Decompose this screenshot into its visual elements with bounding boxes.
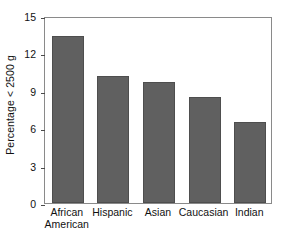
bar — [234, 122, 266, 203]
y-axis-title: Percentage < 2500 g — [0, 0, 20, 210]
bar — [143, 82, 175, 203]
y-axis-tick-labels: 03691215 — [18, 0, 40, 239]
y-axis-tick-label: 0 — [30, 199, 36, 210]
y-axis-tick-label: 12 — [24, 49, 36, 60]
bar — [189, 97, 221, 203]
bar — [97, 76, 129, 203]
plot-area — [44, 17, 272, 204]
x-axis-category-label: Indian — [220, 206, 278, 218]
y-axis-title-text: Percentage < 2500 g — [4, 55, 16, 155]
y-axis-tick-label: 9 — [30, 87, 36, 98]
y-axis-tick-label: 15 — [24, 12, 36, 23]
x-axis-category-line: Hispanic — [92, 206, 132, 218]
x-axis-category-line: Asian — [145, 206, 171, 218]
x-axis-category-line: Indian — [235, 206, 264, 218]
chart-figure: Percentage < 2500 g 03691215 AfricanAmer… — [0, 0, 286, 239]
bar-series — [45, 18, 271, 203]
x-axis-category-labels: AfricanAmericanHispanicAsianCaucasianInd… — [44, 206, 272, 239]
x-axis-category-line: American — [38, 218, 96, 230]
y-axis-tick-label: 3 — [30, 161, 36, 172]
bar — [52, 36, 84, 203]
y-axis-tick-label: 6 — [30, 124, 36, 135]
x-axis-category-line: African — [50, 206, 83, 218]
